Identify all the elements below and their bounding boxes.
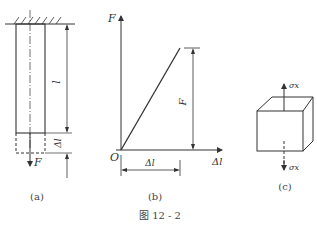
panel-b-caption: (b) (148, 191, 162, 202)
elongation-label-a: Δl (53, 138, 63, 148)
figure-caption: 图 12 - 2 (139, 210, 181, 221)
stress-label-top: σx (289, 81, 299, 90)
y-axis-label: F (107, 12, 116, 25)
force-dimension-label: F (177, 97, 188, 106)
cube-side (303, 97, 313, 151)
cube-top (257, 97, 313, 111)
wall-hatching (14, 17, 61, 24)
cube-front (257, 111, 303, 151)
panel-c (257, 84, 313, 170)
elongation-dimension-label: Δl (144, 158, 154, 168)
bar (16, 24, 45, 133)
panel-c-caption: (c) (278, 181, 292, 192)
force-elongation-line (121, 48, 180, 150)
stress-label-bottom: σx (289, 163, 299, 172)
origin-label: O (110, 151, 119, 164)
panel-a (5, 10, 75, 178)
panel-b (116, 16, 222, 176)
x-axis-label: Δl (211, 156, 222, 167)
figure-canvas: l Δl F (a) F Δl O F Δl (b) σx σx (c) 图 1… (0, 0, 317, 226)
panel-a-caption: (a) (30, 191, 44, 202)
force-label-a: F (33, 156, 42, 169)
length-label: l (50, 80, 63, 84)
